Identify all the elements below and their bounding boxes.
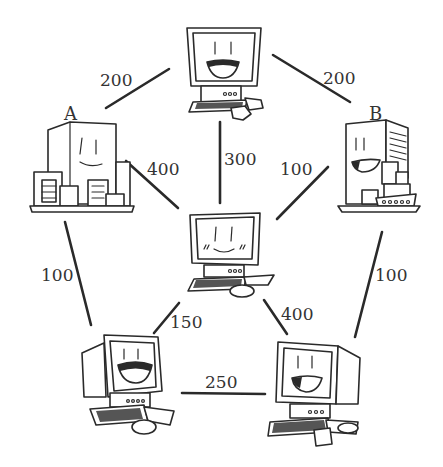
edge-weight-b-bottom-right: 100 bbox=[375, 267, 407, 284]
top-computer-icon bbox=[187, 28, 263, 120]
building-a-icon bbox=[30, 122, 134, 212]
edge-bottom-left-bottom-right bbox=[182, 393, 265, 394]
edge-weight-a-top: 200 bbox=[100, 72, 132, 89]
edge-weight-a-center: 400 bbox=[147, 161, 179, 178]
edge-weight-center-bottom-left: 150 bbox=[170, 314, 202, 331]
bottom-left-computer-icon bbox=[82, 335, 174, 434]
center-computer-icon bbox=[188, 213, 274, 297]
network-diagram bbox=[0, 0, 443, 467]
edge-weight-top-b: 200 bbox=[323, 70, 355, 87]
edge-weight-bottom-left-bottom-right: 250 bbox=[205, 374, 237, 391]
edge-weight-center-bottom-right: 400 bbox=[281, 306, 313, 323]
building-b-icon bbox=[338, 120, 420, 212]
edge-weight-b-center: 100 bbox=[280, 161, 312, 178]
node-label-a: A bbox=[64, 105, 77, 123]
edge-weight-a-bottom-left: 100 bbox=[41, 267, 73, 284]
edge-weight-top-center: 300 bbox=[224, 151, 256, 168]
bottom-right-computer-icon bbox=[268, 342, 360, 446]
node-label-b: B bbox=[369, 105, 382, 123]
